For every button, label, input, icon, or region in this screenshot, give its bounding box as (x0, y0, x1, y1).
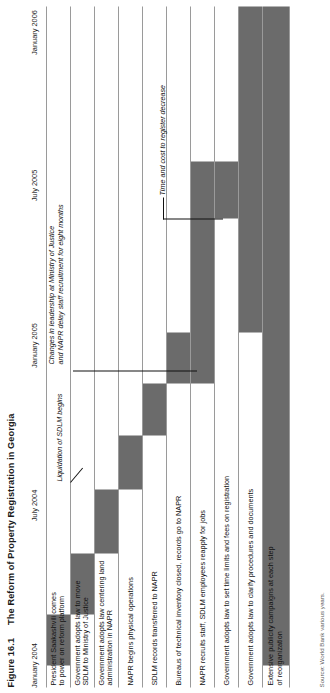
annotation-leader-line (163, 197, 164, 219)
list-item: Government adopts law centering land adm… (98, 560, 115, 685)
axis-tick-jul-2005: July 2005 (30, 169, 39, 201)
gantt-bar (263, 6, 289, 665)
gantt-bar (239, 6, 262, 332)
annotation-leader-line (73, 370, 197, 371)
table-row: Extensive publicity campaigns at each st… (262, 6, 290, 687)
table-row: Government adopts law to clarify procedu… (238, 6, 262, 687)
list-item: NAPR recruits staff, SDLM employees reap… (198, 510, 207, 685)
gantt-bar (167, 332, 190, 383)
table-row: Government adopts law to set time limits… (214, 6, 238, 687)
figure-number: Figure 16.1 (6, 637, 16, 687)
table-row: Bureaus of technical inventory closed, r… (166, 6, 190, 687)
gantt-bar (119, 435, 142, 489)
figure-page: Figure 16.1The Reform of Property Regist… (0, 0, 330, 693)
annotation-leadership-delay: Changes in leadership at Ministry of Jus… (48, 204, 65, 364)
annotation-liquidation: Liquidation of SDLM begins (56, 393, 65, 481)
gantt-bar (143, 383, 166, 435)
table-row: Government adopts law centering land adm… (94, 6, 118, 687)
gantt-rows: President Saakashvili comes to power on … (46, 6, 295, 687)
annotation-time-cost: Time and cost to register decrease (159, 84, 168, 195)
table-row: NAPR recruits staff, SDLM employees reap… (190, 6, 214, 687)
list-item: Government adopts law to set time limits… (222, 475, 231, 685)
gantt-bar (215, 161, 238, 218)
figure-title: Figure 16.1The Reform of Property Regist… (6, 413, 16, 687)
axis-tick-jul-2004: July 2004 (30, 489, 39, 521)
axis-tick-jan-2004: January 2004 (30, 643, 39, 688)
gantt-bar (95, 489, 118, 553)
list-item: SDLM records transferred to NAPR (150, 571, 159, 685)
gantt-bar (71, 553, 94, 614)
list-item: Bureaus of technical inventory closed, r… (174, 495, 183, 685)
table-row: NAPR begins physical operations (118, 6, 142, 687)
axis-tick-jan-2006: January 2006 (30, 10, 39, 55)
figure-source: Source: World Bank various years. (318, 592, 325, 687)
list-item: Government adopts law to clarify procedu… (246, 488, 255, 685)
list-item: NAPR begins physical operations (126, 577, 135, 685)
axis-tick-jan-2005: January 2005 (30, 323, 39, 368)
gantt-bar (47, 614, 70, 665)
annotation-leader-line (163, 218, 223, 219)
table-row: Government adopts law to move SDLM to Mi… (70, 6, 94, 687)
rotated-figure-container: Figure 16.1The Reform of Property Regist… (0, 0, 330, 693)
gantt-chart: January 2004 July 2004 January 2005 July… (30, 6, 295, 687)
figure-title-text: The Reform of Property Registration in G… (6, 413, 16, 624)
gantt-bar (191, 161, 214, 383)
